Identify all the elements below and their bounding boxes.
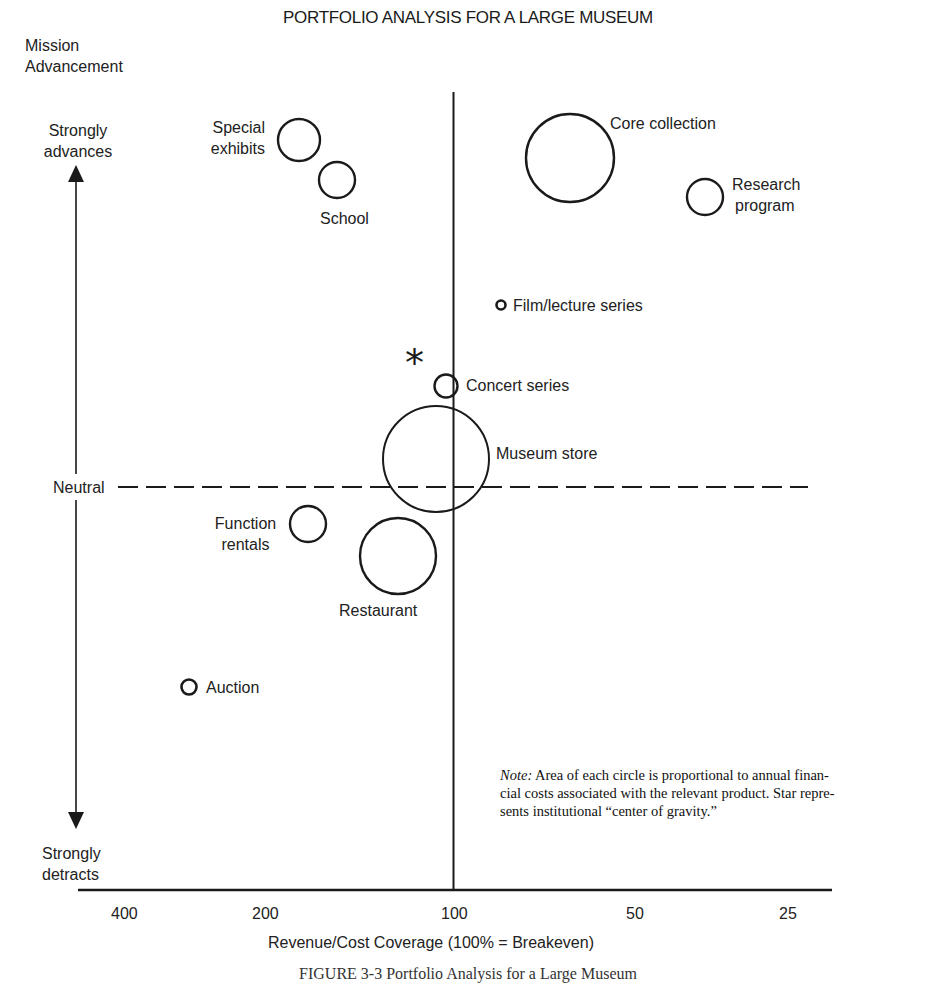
figure-caption: FIGURE 3-3 Portfolio Analysis for a Larg…: [0, 965, 936, 983]
center-of-gravity-star-icon: *: [405, 344, 424, 382]
arrow-up-icon: [68, 165, 84, 182]
bubble-museum-store: [383, 406, 489, 512]
x-tick-400: 400: [111, 903, 138, 924]
label-school: School: [320, 208, 369, 229]
bubble-special-exhibits: [278, 119, 320, 161]
x-tick-200: 200: [252, 903, 279, 924]
bubble-auction: [182, 680, 197, 695]
x-axis-title: Revenue/Cost Coverage (100% = Breakeven): [268, 932, 594, 953]
note-line3: sents institutional “center of gravity.”: [500, 802, 920, 820]
bubble-restaurant: [360, 518, 436, 594]
bubble-core-collection: [526, 114, 614, 202]
label-function-line2: rentals: [208, 534, 283, 555]
label-auction: Auction: [206, 677, 259, 698]
note-line2: cial costs associated with the relevant …: [500, 784, 920, 802]
label-research-line1: Research: [732, 174, 800, 195]
bubble-function-rentals: [290, 506, 326, 542]
label-special-exhibits-line1: Special: [205, 117, 265, 138]
label-special-exhibits-line2: exhibits: [205, 138, 265, 159]
bubble-film-lecture-series: [497, 301, 506, 310]
note-label: Note:: [500, 767, 532, 783]
bubble-school: [319, 162, 355, 198]
bubble-research-program: [687, 179, 723, 215]
label-concert-series: Concert series: [466, 375, 569, 396]
mission-arrow: [68, 165, 84, 829]
chart-note: Note: Area of each circle is proportiona…: [500, 766, 920, 820]
x-tick-50: 50: [626, 903, 644, 924]
label-special-exhibits: Special exhibits: [205, 117, 265, 159]
label-function-line1: Function: [208, 513, 283, 534]
x-tick-100: 100: [441, 903, 468, 924]
arrow-down-icon: [68, 812, 84, 829]
label-research-program: Research program: [732, 174, 800, 216]
x-tick-25: 25: [779, 903, 797, 924]
label-function-rentals: Function rentals: [208, 513, 283, 555]
label-restaurant: Restaurant: [339, 600, 417, 621]
label-museum-store: Museum store: [496, 443, 597, 464]
label-film-lecture-series: Film/lecture series: [513, 295, 643, 316]
label-research-line2: program: [732, 195, 800, 216]
label-core-collection: Core collection: [610, 113, 716, 134]
note-line1: Area of each circle is proportional to a…: [535, 767, 829, 783]
